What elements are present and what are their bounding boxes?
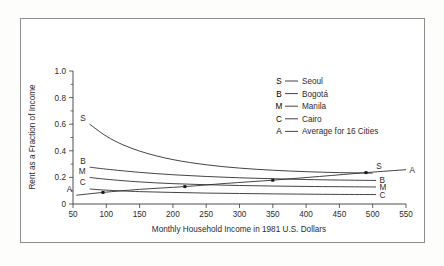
legend-key-S: S [276,77,282,86]
series-curve-M [90,177,376,187]
data-point-marker-A [365,171,368,174]
y-tick-label: 0.2 [55,173,67,182]
x-tick-label: 50 [68,210,78,219]
legend-key-C: C [276,115,282,124]
series-left-label-C: C [80,178,86,187]
figure-page: 00.20.40.60.81.0 50100150200250300350400… [0,0,444,266]
x-axis-title: Monthly Household Income in 1981 U.S. Do… [152,225,326,234]
series-left-label-B: B [80,157,86,166]
y-tick-label: 0.8 [55,94,67,103]
chart-canvas: 00.20.40.60.81.0 50100150200250300350400… [21,19,424,242]
x-tick-label: 100 [99,210,113,219]
series-left-label-S: S [80,114,86,123]
legend-key-M: M [276,102,283,111]
figure-frame: 00.20.40.60.81.0 50100150200250300350400… [20,18,425,243]
x-tick-label: 300 [233,210,247,219]
series-right-label-C: C [380,191,386,200]
x-tick-label: 500 [366,210,380,219]
series-curve-B [90,167,376,180]
data-point-marker-A [271,179,274,182]
legend-key-A: A [276,127,282,136]
y-tick-label: 0.4 [55,147,67,156]
x-tick-label: 400 [299,210,313,219]
legend-label-C: Cairo [302,115,322,124]
series-left-label-M: M [79,167,86,176]
x-tick-label: 350 [266,210,280,219]
series-right-label-A: A [410,166,416,175]
x-tick-label: 150 [133,210,147,219]
x-tick-label-group: 50100150200250300350400450500550 [68,210,413,219]
y-tick-label: 0 [61,200,66,209]
legend-label-S: Seoul [302,77,323,86]
x-tick-label: 450 [333,210,347,219]
series-left-label-A: A [67,185,73,194]
series-right-label-S: S [376,162,382,171]
legend-label-B: Bogotá [302,90,328,99]
x-tick-group [73,204,406,208]
y-tick-label: 0.6 [55,120,67,129]
data-point-marker-A [101,191,104,194]
y-axis-title: Rent as a Fraction of Income [28,84,37,190]
legend-label-A: Average for 16 Cities [302,127,378,136]
y-tick-label: 1.0 [55,67,67,76]
axes-group [73,71,406,204]
x-tick-label: 250 [199,210,213,219]
legend: SSeoulBBogotáMManilaCCairoAAverage for 1… [276,77,379,136]
data-point-marker-A [183,185,186,188]
x-tick-label: 200 [166,210,180,219]
legend-label-M: Manila [302,102,327,111]
x-tick-label: 550 [399,210,413,219]
y-tick-label-group: 00.20.40.60.81.0 [55,67,67,209]
legend-key-B: B [276,90,282,99]
